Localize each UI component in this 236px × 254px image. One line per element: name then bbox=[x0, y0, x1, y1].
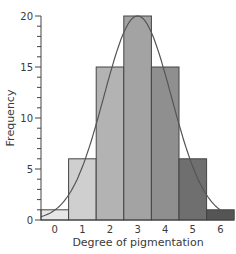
histogram-chart: 05101520 0123456 Frequency Degree of pig… bbox=[0, 0, 236, 254]
x-tick-label: 5 bbox=[190, 224, 196, 235]
y-ticks: 05101520 bbox=[20, 11, 41, 226]
bar-3 bbox=[124, 16, 152, 220]
x-tick-label: 1 bbox=[79, 224, 85, 235]
x-tick-label: 3 bbox=[134, 224, 140, 235]
x-axis-label: Degree of pigmentation bbox=[72, 236, 203, 249]
y-tick-label: 5 bbox=[27, 164, 33, 175]
bars-group bbox=[41, 16, 234, 220]
y-tick-label: 10 bbox=[20, 113, 33, 124]
x-tick-labels: 0123456 bbox=[52, 224, 224, 235]
y-axis-label: Frequency bbox=[4, 89, 17, 146]
bar-2 bbox=[96, 67, 124, 220]
x-tick-label: 6 bbox=[217, 224, 223, 235]
bar-4 bbox=[151, 67, 179, 220]
y-tick-label: 15 bbox=[20, 62, 33, 73]
x-tick-label: 4 bbox=[162, 224, 168, 235]
x-tick-label: 0 bbox=[52, 224, 58, 235]
x-tick-label: 2 bbox=[107, 224, 113, 235]
y-tick-label: 20 bbox=[20, 11, 33, 22]
y-tick-label: 0 bbox=[27, 215, 33, 226]
